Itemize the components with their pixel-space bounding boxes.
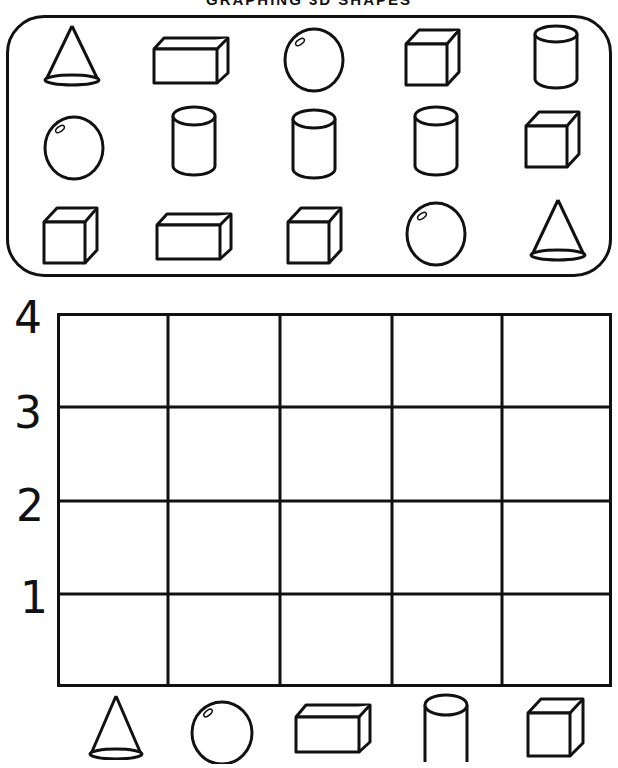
worksheet-title: GRAPHING 3D SHAPES: [0, 0, 618, 8]
graph-cell[interactable]: [57, 501, 168, 594]
x-label-cone-icon: [86, 694, 146, 764]
graph-cell[interactable]: [392, 501, 502, 594]
cylinder-icon: [532, 23, 580, 91]
sphere-icon: [404, 201, 468, 267]
x-label-sphere-icon: [189, 698, 255, 768]
cylinder-icon: [290, 107, 338, 181]
cylinder-icon: [412, 104, 460, 178]
cube-icon: [523, 109, 583, 171]
y-label-1: 1: [20, 576, 48, 620]
graph-cell[interactable]: [502, 501, 612, 594]
graph-cell[interactable]: [280, 501, 392, 594]
graph-cell[interactable]: [57, 407, 168, 501]
graph-cell[interactable]: [168, 407, 280, 501]
graph-cell[interactable]: [168, 594, 280, 687]
graph-cell[interactable]: [280, 407, 392, 501]
y-label-2: 2: [16, 484, 44, 528]
graph-cell[interactable]: [57, 594, 168, 687]
graph-cell[interactable]: [168, 313, 280, 407]
graph-cell[interactable]: [280, 313, 392, 407]
graph-cell[interactable]: [502, 407, 612, 501]
x-label-rectangular-prism-icon: [294, 702, 374, 758]
graph-cell[interactable]: [392, 594, 502, 687]
graph-cell[interactable]: [392, 407, 502, 501]
cone-icon: [42, 24, 102, 88]
graph-cell[interactable]: [57, 313, 168, 407]
y-label-4: 4: [14, 296, 42, 340]
sphere-icon: [282, 27, 346, 93]
graph-cell[interactable]: [280, 594, 392, 687]
x-label-cube-icon: [525, 696, 587, 764]
x-label-cylinder-icon: [422, 692, 470, 768]
graph-cells: [57, 313, 612, 687]
cylinder-icon: [170, 104, 218, 178]
y-label-3: 3: [14, 391, 42, 435]
cube-icon: [41, 205, 101, 267]
graph-cell[interactable]: [502, 313, 612, 407]
cone-icon: [528, 198, 588, 264]
graph-cell[interactable]: [502, 594, 612, 687]
cube-icon: [403, 27, 463, 89]
graph-cell[interactable]: [392, 313, 502, 407]
graph-cell[interactable]: [168, 501, 280, 594]
rectangular-prism-icon: [152, 35, 232, 85]
rectangular-prism-icon: [155, 211, 235, 261]
sphere-icon: [42, 114, 106, 182]
cube-icon: [285, 205, 345, 267]
